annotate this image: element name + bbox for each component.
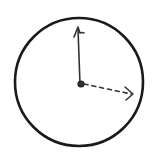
dashed-vector-arrow bbox=[84, 84, 133, 100]
vector-diagram bbox=[0, 0, 155, 163]
solid-vector-arrow bbox=[74, 27, 84, 84]
origin-dot bbox=[78, 81, 84, 87]
